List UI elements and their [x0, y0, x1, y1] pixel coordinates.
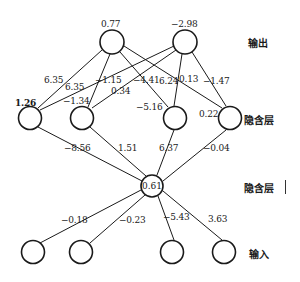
- weight-h3-o1: −4.41: [133, 76, 160, 85]
- weight-h2-o1: −1.15: [95, 76, 122, 85]
- weight-h1-o1: 6.35: [44, 76, 63, 85]
- weight-h2-m: 1.51: [118, 144, 137, 153]
- node-input-3: [161, 241, 184, 264]
- bias-output-2: −2.98: [171, 20, 198, 29]
- bias-output-1: 0.77: [101, 20, 120, 29]
- weight-h4-m: −0.04: [203, 144, 230, 153]
- node-hidden1-3: [164, 107, 187, 130]
- margin-mark: [285, 180, 286, 194]
- node-hidden1-1: [19, 107, 42, 130]
- weight-h4-o1: 0.13: [179, 75, 198, 84]
- bias-hidden1-4: 0.22: [199, 110, 218, 119]
- weight-h4-o2: −1.47: [203, 77, 230, 86]
- weight-h1-m: −8.56: [64, 144, 91, 153]
- node-hidden1-4: [219, 107, 242, 130]
- weight-h3-m: 6.37: [159, 144, 178, 153]
- weight-i4-m: 3.63: [208, 215, 227, 224]
- layer-label-output: 输出: [248, 35, 268, 50]
- edge-h1-m: [38, 127, 142, 181]
- bias-hidden1-3: −5.16: [136, 103, 163, 112]
- node-output-1: [100, 30, 124, 54]
- weight-i1-m: −0.18: [61, 216, 88, 225]
- node-input-1: [22, 241, 45, 264]
- layer-label-input: 输入: [249, 246, 269, 261]
- layer-label-hidden1: 隐含层: [244, 112, 274, 127]
- bias-hidden2: 0.61: [140, 182, 164, 191]
- weight-h3-o2: 6.24: [159, 77, 178, 86]
- bias-hidden1-2: −1.34: [63, 97, 90, 106]
- node-hidden1-2: [71, 107, 94, 130]
- layer-label-hidden2: 隐含层: [244, 180, 274, 195]
- node-output-2: [173, 30, 197, 54]
- bias-hidden1-1: 1.26: [15, 99, 36, 108]
- node-input-2: [70, 241, 93, 264]
- weight-h1-o2: 6.35: [65, 83, 84, 92]
- weight-i3-m: −5.43: [163, 213, 190, 222]
- edge-h4-m: [163, 130, 226, 181]
- weight-i2-m: −0.23: [119, 216, 146, 225]
- weight-h2-o2: 0.34: [111, 87, 130, 96]
- node-input-4: [213, 241, 236, 264]
